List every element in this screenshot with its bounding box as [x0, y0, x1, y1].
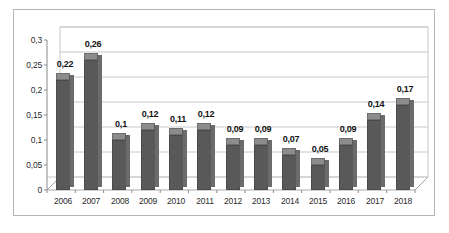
- bar-value-label: 0,07: [271, 134, 311, 144]
- bar-front: [169, 135, 183, 190]
- bar-top-face: [84, 53, 98, 60]
- bar-side-face: [125, 135, 130, 187]
- bar-front: [254, 145, 268, 190]
- bar-top-face: [169, 128, 183, 135]
- bar-top-face: [226, 138, 240, 145]
- bar-value-label: 0,1: [101, 119, 141, 129]
- bar-top-face: [367, 113, 381, 120]
- bar-front: [396, 105, 410, 190]
- bar-side-face: [380, 115, 385, 187]
- bar-front: [141, 130, 155, 190]
- bar-front: [367, 120, 381, 190]
- bar-value-label: 0,09: [243, 124, 283, 134]
- bar-top-face: [112, 133, 126, 140]
- bar-top-face: [282, 148, 296, 155]
- bar-side-face: [210, 125, 215, 187]
- bar-top-face: [396, 98, 410, 105]
- ytick-label-1: 0,05: [14, 160, 42, 170]
- bar-top-face: [56, 73, 70, 80]
- ytick-label-5: 0,25: [14, 60, 42, 70]
- bar-front: [197, 130, 211, 190]
- bar-front: [311, 165, 325, 190]
- ytick-label-2: 0,1: [14, 135, 42, 145]
- bar-front: [282, 155, 296, 190]
- bar-side-face: [69, 75, 74, 187]
- bar-side-face: [352, 140, 357, 187]
- bar-value-label: 0,14: [356, 99, 396, 109]
- bar-side-face: [154, 125, 159, 187]
- bar-value-label: 0,22: [45, 59, 85, 69]
- bar-top-face: [141, 123, 155, 130]
- bar-front: [56, 80, 70, 190]
- plot-area: 0 0,05 0,1 0,15 0,2 0,25 0,3 0,22 0,26 0…: [0, 0, 449, 233]
- bar-top-face: [254, 138, 268, 145]
- bar-front: [112, 140, 126, 190]
- bar-side-face: [182, 130, 187, 187]
- bar-value-label: 0,26: [73, 39, 113, 49]
- bar-top-face: [311, 158, 325, 165]
- bar-value-label: 0,17: [385, 84, 425, 94]
- bar-value-label: 0,05: [300, 144, 340, 154]
- bar-side-face: [239, 140, 244, 187]
- bar-front: [84, 60, 98, 190]
- chart-figure: 0 0,05 0,1 0,15 0,2 0,25 0,3 0,22 0,26 0…: [0, 0, 449, 233]
- bar-top-face: [197, 123, 211, 130]
- ytick-label-3: 0,15: [14, 110, 42, 120]
- bar-front: [339, 145, 353, 190]
- bar-value-label: 0,12: [186, 109, 226, 119]
- bar-top-face: [339, 138, 353, 145]
- category-label-2018: 2018: [383, 196, 423, 206]
- ytick-label-4: 0,2: [14, 85, 42, 95]
- bar-side-face: [324, 160, 329, 187]
- bar-value-label: 0,09: [328, 124, 368, 134]
- bar-side-face: [295, 150, 300, 187]
- bar-front: [226, 145, 240, 190]
- bar-side-face: [267, 140, 272, 187]
- bar-side-face: [409, 100, 414, 187]
- ytick-label-0: 0: [14, 185, 42, 195]
- ytick-label-6: 0,3: [14, 35, 42, 45]
